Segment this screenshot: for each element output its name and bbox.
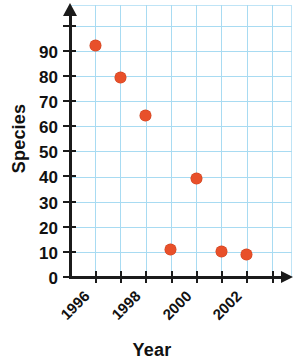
- y-axis-tick: [63, 276, 76, 278]
- data-point[interactable]: [165, 244, 176, 255]
- y-axis-tick: [63, 251, 76, 253]
- x-axis-tick: [171, 271, 173, 283]
- y-axis-tick: [63, 175, 76, 177]
- gridline-vertical: [247, 5, 248, 277]
- y-tick-label-90: 90: [18, 44, 58, 61]
- y-axis-line: [69, 14, 72, 279]
- y-tick-label-80: 80: [18, 69, 58, 86]
- y-axis-title: Species: [9, 91, 30, 187]
- x-tick-label-1996: 1996: [58, 288, 92, 322]
- x-axis-tick: [145, 271, 147, 283]
- gridline-vertical: [171, 5, 172, 277]
- y-axis-tick: [63, 125, 76, 127]
- gridline-horizontal: [70, 101, 292, 102]
- grid-background: [70, 5, 292, 277]
- data-point[interactable]: [90, 40, 101, 51]
- gridline-vertical: [196, 5, 197, 277]
- gridline-vertical: [120, 5, 121, 277]
- x-tick-label-1998: 1998: [109, 288, 143, 322]
- x-axis-title: Year: [0, 340, 304, 361]
- gridline-horizontal: [70, 51, 292, 52]
- y-tick-label-20: 20: [18, 220, 58, 237]
- x-tick-label-2000: 2000: [160, 288, 194, 322]
- y-axis-tick: [63, 226, 76, 228]
- gridline-vertical: [146, 5, 147, 277]
- x-axis-tick: [196, 271, 198, 283]
- gridline-vertical: [221, 5, 222, 277]
- x-axis-arrow-icon: [281, 271, 293, 283]
- x-axis-tick: [120, 271, 122, 283]
- y-axis-tick: [63, 50, 76, 52]
- gridline-horizontal: [70, 126, 292, 127]
- gridline-vertical: [272, 5, 273, 277]
- y-axis-tick: [63, 150, 76, 152]
- y-tick-label-30: 30: [18, 195, 58, 212]
- gridline-horizontal: [70, 202, 292, 203]
- gridline-horizontal: [70, 252, 292, 253]
- gridline-horizontal: [70, 76, 292, 77]
- gridline-horizontal: [70, 177, 292, 178]
- x-axis-tick: [246, 271, 248, 283]
- y-axis-arrow-icon: [63, 3, 77, 16]
- x-axis-tick: [95, 271, 97, 283]
- y-axis-tick: [63, 25, 76, 27]
- y-axis-tick: [63, 201, 76, 203]
- data-point[interactable]: [216, 246, 227, 257]
- scatter-plot-figure: 0 10 20 30 40 50 60 70 80 90 1996 1998 2…: [0, 0, 304, 363]
- y-tick-label-10: 10: [18, 245, 58, 262]
- x-axis-tick: [272, 271, 274, 283]
- x-tick-label-2002: 2002: [210, 288, 244, 322]
- data-point[interactable]: [241, 249, 252, 260]
- x-axis-line: [69, 276, 283, 279]
- y-axis-tick: [63, 100, 76, 102]
- gridline-horizontal: [70, 151, 292, 152]
- plot-area: [70, 5, 292, 277]
- x-axis-tick: [221, 271, 223, 283]
- gridline-horizontal: [70, 26, 292, 27]
- y-axis-tick: [63, 75, 76, 77]
- data-point[interactable]: [191, 173, 202, 184]
- y-tick-label-0: 0: [18, 270, 58, 287]
- gridline-horizontal: [70, 227, 292, 228]
